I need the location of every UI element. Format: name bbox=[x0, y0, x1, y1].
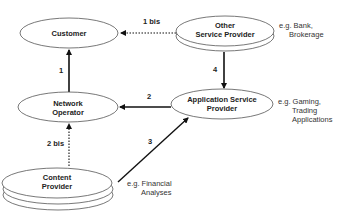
node-customer: Customer bbox=[20, 18, 118, 48]
svg-text:2: 2 bbox=[147, 92, 151, 101]
svg-text:Operator: Operator bbox=[52, 108, 84, 117]
svg-text:Applications: Applications bbox=[292, 115, 333, 124]
svg-text:Analyses: Analyses bbox=[141, 188, 172, 197]
svg-text:Other: Other bbox=[215, 21, 235, 30]
svg-text:e.g. Financial: e.g. Financial bbox=[127, 179, 172, 188]
edge-2: 2 bbox=[120, 92, 171, 107]
edge-1bis: 1 bis bbox=[121, 17, 176, 33]
edge-1: 1 bbox=[59, 50, 69, 92]
edge-4: 4 bbox=[213, 52, 224, 88]
edge-3: 3 bbox=[118, 118, 188, 182]
svg-text:4: 4 bbox=[213, 65, 218, 74]
svg-text:Application Service: Application Service bbox=[187, 95, 257, 104]
svg-text:3: 3 bbox=[148, 137, 152, 146]
svg-text:e.g. Bank,: e.g. Bank, bbox=[279, 21, 313, 30]
svg-text:Service Provider: Service Provider bbox=[195, 30, 254, 39]
svg-text:Trading: Trading bbox=[292, 106, 317, 115]
svg-text:e.g. Gaming,: e.g. Gaming, bbox=[278, 97, 321, 106]
node-other-service-provider: Other Service Provider bbox=[176, 16, 274, 51]
svg-text:Content: Content bbox=[43, 173, 72, 182]
node-application-service-provider: Application Service Provider bbox=[171, 89, 273, 119]
svg-text:Customer: Customer bbox=[51, 29, 86, 38]
note-application-service-provider: e.g. Gaming, Trading Applications bbox=[278, 97, 333, 124]
node-content-provider: Content Provider bbox=[2, 168, 113, 210]
value-chain-diagram: 1 1 bis 2 2 bis 3 4 Customer Other Servi… bbox=[0, 0, 341, 218]
note-other-service-provider: e.g. Bank, Brokerage bbox=[279, 21, 324, 39]
note-content-provider: e.g. Financial Analyses bbox=[127, 179, 172, 197]
svg-text:Network: Network bbox=[53, 99, 83, 108]
svg-text:Brokerage: Brokerage bbox=[289, 30, 324, 39]
svg-text:1: 1 bbox=[59, 66, 63, 75]
svg-text:Provider: Provider bbox=[42, 182, 73, 191]
node-network-operator: Network Operator bbox=[18, 92, 118, 122]
svg-text:Provider: Provider bbox=[207, 104, 238, 113]
svg-text:1 bis: 1 bis bbox=[143, 17, 160, 26]
edge-2bis: 2 bis bbox=[47, 124, 69, 166]
svg-text:2 bis: 2 bis bbox=[47, 139, 64, 148]
